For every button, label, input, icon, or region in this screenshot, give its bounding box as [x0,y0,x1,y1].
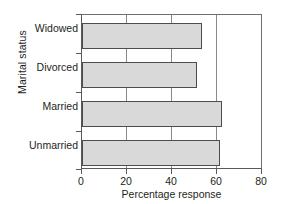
y-tick-label-married: Married [6,100,78,112]
y-tick-label-widowed: Widowed [6,22,78,34]
x-tick-label-60: 60 [201,175,231,187]
x-tick-label-0: 0 [66,175,96,187]
y-axis-tick-labels: Widowed Divorced Married Unmarried [2,0,78,204]
plot-area [81,14,262,169]
bar-married [82,101,222,127]
x-tick-label-20: 20 [111,175,141,187]
x-axis-tick [126,169,127,174]
bar-unmarried [82,140,220,166]
bar-chart: Marital status Widowed Divorced Married … [0,0,284,204]
bar-widowed [82,23,202,49]
x-axis-tick [171,169,172,174]
x-tick-label-40: 40 [156,175,186,187]
bar-divorced [82,62,197,88]
x-axis-tick [216,169,217,174]
x-axis-tick [261,169,262,174]
y-tick-label-divorced: Divorced [6,61,78,73]
x-axis-tick [81,169,82,174]
y-tick-label-unmarried: Unmarried [6,139,78,151]
x-tick-label-80: 80 [246,175,276,187]
x-axis-title: Percentage response [81,188,262,200]
